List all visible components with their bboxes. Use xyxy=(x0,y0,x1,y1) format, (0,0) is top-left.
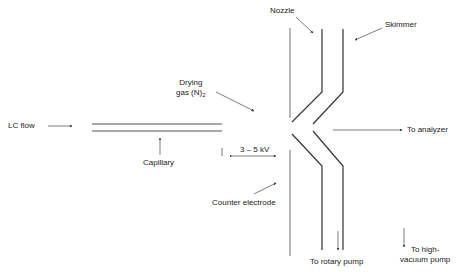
high-vacuum-line2: vacuum pump xyxy=(400,255,450,265)
to-analyzer-label: To analyzer xyxy=(407,125,448,135)
voltage-label: 3 – 5 kV xyxy=(240,145,269,155)
capillary-label: Capillary xyxy=(143,158,174,168)
skimmer-upper xyxy=(313,29,343,124)
counter-electrode-arrow xyxy=(254,183,276,194)
high-vacuum-line1: To high- xyxy=(400,245,450,255)
esi-source-schematic xyxy=(0,0,464,272)
counter-electrode-label: Counter electrode xyxy=(212,198,276,208)
drying-gas-line2: gas (N)2 xyxy=(176,88,206,98)
nozzle-label: Nozzle xyxy=(270,6,294,16)
skimmer-lower xyxy=(313,131,343,250)
lc-flow-label: LC flow xyxy=(8,121,35,131)
nozzle-lower xyxy=(292,134,322,250)
drying-gas-subscript: 2 xyxy=(202,92,205,98)
nozzle-upper xyxy=(292,29,322,122)
nozzle-arrow xyxy=(296,17,313,33)
to-high-vacuum-pump-label: To high- vacuum pump xyxy=(400,245,450,265)
to-rotary-pump-label: To rotary pump xyxy=(310,257,363,267)
skimmer-arrow xyxy=(355,28,382,40)
drying-gas-label: Drying gas (N)2 xyxy=(176,78,206,98)
skimmer-label: Skimmer xyxy=(385,20,417,30)
drying-gas-arrow xyxy=(216,92,254,111)
drying-gas-line1: Drying xyxy=(176,78,206,88)
